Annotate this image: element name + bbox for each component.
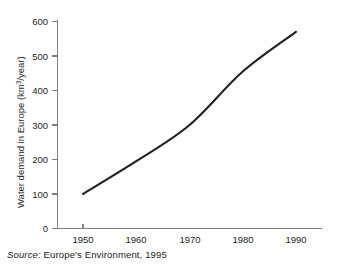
y-tick-label-0: 0	[43, 223, 48, 234]
y-axis-title-tail: /year)	[15, 56, 26, 80]
figure-container: 600 500 400 300 200 100 0 1950 1960 1970…	[0, 0, 337, 271]
y-tick-label-500: 500	[32, 51, 48, 62]
data-series-line	[83, 32, 296, 194]
y-tick-label-300: 300	[32, 120, 48, 131]
line-chart: 600 500 400 300 200 100 0 1950 1960 1970…	[0, 0, 337, 271]
y-axis-title: Water demand in Europe (km3/year)	[15, 56, 26, 208]
x-tick-label-1960: 1960	[125, 234, 146, 245]
y-axis-ticks	[52, 22, 58, 229]
y-tick-label-600: 600	[32, 16, 48, 27]
x-axis-tick-labels: 1950 1960 1970 1980 1990	[72, 234, 306, 245]
y-tick-label-200: 200	[32, 154, 48, 165]
y-tick-label-400: 400	[32, 85, 48, 96]
x-tick-label-1950: 1950	[72, 234, 93, 245]
y-axis-tick-labels: 600 500 400 300 200 100 0	[32, 16, 48, 234]
y-axis-title-main: Water demand in Europe (km	[15, 84, 26, 208]
source-caption: Source: Europe's Environment, 1995	[7, 249, 167, 260]
source-label: Source:	[7, 249, 41, 260]
source-text: Europe's Environment, 1995	[44, 249, 167, 260]
x-tick-label-1990: 1990	[285, 234, 306, 245]
x-tick-label-1970: 1970	[179, 234, 200, 245]
x-tick-label-1980: 1980	[232, 234, 253, 245]
y-tick-label-100: 100	[32, 189, 48, 200]
